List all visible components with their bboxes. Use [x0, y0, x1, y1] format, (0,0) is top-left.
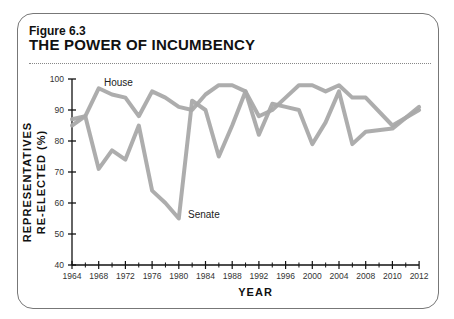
series-label-senate: Senate: [188, 209, 220, 220]
y-tick-label: 70: [55, 167, 65, 177]
x-axis-title: YEAR: [238, 286, 273, 298]
y-tick-label: 40: [55, 260, 65, 270]
x-tick-label: 1992: [249, 271, 268, 281]
y-axis-title-line1: REPRESENTATIVES: [21, 122, 33, 242]
x-tick-label: 1996: [276, 271, 295, 281]
series-line-senate: [72, 91, 419, 218]
line-chart: 4050607080901001964196819721976198019841…: [0, 0, 454, 319]
x-tick-label: 1976: [143, 271, 162, 281]
y-tick-label: 60: [55, 198, 65, 208]
x-tick-label: 2012: [410, 271, 429, 281]
x-tick-label: 1988: [223, 271, 242, 281]
x-tick-label: 2008: [356, 271, 375, 281]
series-label-house: House: [104, 77, 133, 88]
y-tick-label: 90: [55, 105, 65, 115]
y-tick-label: 80: [55, 136, 65, 146]
x-tick-label: 1972: [116, 271, 135, 281]
y-tick-label: 100: [50, 74, 64, 84]
x-tick-label: 2000: [303, 271, 322, 281]
x-tick-label: 1980: [169, 271, 188, 281]
x-tick-label: 1984: [196, 271, 215, 281]
x-tick-label: 1968: [89, 271, 108, 281]
x-tick-label: 1964: [63, 271, 82, 281]
x-tick-label: 2004: [330, 271, 349, 281]
x-tick-label: 2010: [383, 271, 402, 281]
y-axis-title-line2: RE-ELECTED (%): [35, 130, 47, 234]
y-tick-label: 50: [55, 229, 65, 239]
